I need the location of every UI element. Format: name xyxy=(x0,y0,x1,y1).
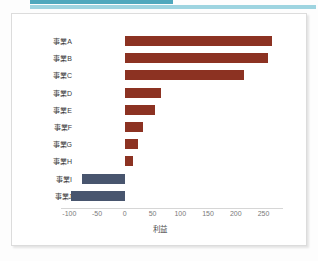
bar-事業B xyxy=(125,53,268,63)
accent-band-dark xyxy=(30,0,173,4)
bar-category-label: 事業F xyxy=(16,123,72,132)
bar-category-label: 事業H xyxy=(16,157,72,166)
accent-band-light xyxy=(30,5,316,9)
bar-事業C xyxy=(125,70,244,80)
bar-事業I xyxy=(82,174,125,184)
x-axis-line xyxy=(61,208,283,209)
bar-category-label: 事業B xyxy=(16,54,72,63)
bar-事業F xyxy=(125,122,143,132)
bar-category-label: 事業G xyxy=(16,140,72,149)
x-axis-tick-label: 250 xyxy=(247,210,281,217)
bar-事業E xyxy=(125,105,156,115)
bar-chart-plot-area: 利益 事業A事業B事業C事業D事業E事業F事業G事業H事業I事業J-100-50… xyxy=(12,14,308,247)
screenshot-root: 利益 事業A事業B事業C事業D事業E事業F事業G事業H事業I事業J-100-50… xyxy=(0,0,318,261)
bar-事業A xyxy=(125,36,272,46)
bar-category-label: 事業I xyxy=(16,175,72,184)
bar-category-label: 事業D xyxy=(16,89,72,98)
bar-category-label: 事業A xyxy=(16,37,72,46)
bar-事業D xyxy=(125,88,161,98)
bar-category-label: 事業E xyxy=(16,106,72,115)
x-axis-title: 利益 xyxy=(12,223,308,234)
chart-card: 利益 事業A事業B事業C事業D事業E事業F事業G事業H事業I事業J-100-50… xyxy=(11,13,307,246)
bar-事業J xyxy=(71,191,125,201)
bar-category-label: 事業C xyxy=(16,71,72,80)
bar-事業G xyxy=(125,139,138,149)
bar-category-label: 事業J xyxy=(16,192,72,201)
bar-事業H xyxy=(125,156,133,166)
